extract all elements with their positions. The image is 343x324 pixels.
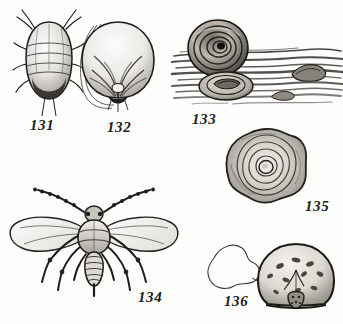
scale-bud [288, 292, 304, 309]
scale-lower-light [199, 72, 253, 100]
scale-center-dot [217, 43, 225, 50]
figure-131-caption: 131 [30, 118, 54, 133]
scale-aperture [112, 84, 124, 93]
figure-135 [222, 126, 310, 206]
outline-shape [208, 245, 260, 288]
figure-136-caption: 136 [224, 294, 248, 309]
illustration-plate: 131 [0, 0, 343, 324]
bark-scale-tiny-lower [272, 91, 294, 100]
figure-133-caption: 133 [192, 112, 216, 127]
figure-135-caption: 135 [305, 199, 329, 214]
figure-132 [72, 12, 164, 116]
larva-caudal-filaments [42, 97, 56, 116]
antennae-beads [33, 188, 155, 207]
figure-134-caption: 134 [138, 290, 162, 305]
figure-132-caption: 132 [107, 120, 131, 135]
scale-upper-dark [188, 20, 248, 76]
figure-133 [172, 18, 343, 108]
figure-134 [4, 176, 184, 296]
bark-scale-small-right [292, 65, 326, 82]
figure-136 [200, 236, 342, 316]
